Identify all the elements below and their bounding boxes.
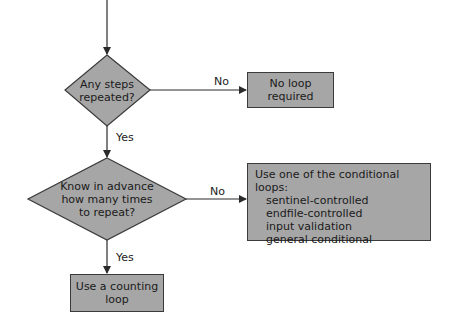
- box-2-item: input validation: [266, 220, 430, 233]
- box-3-line-2: loop: [71, 293, 163, 306]
- edge-label-d2-no: No: [210, 185, 225, 198]
- decision-1-text: Any steps repeated?: [62, 78, 152, 104]
- box-3-line-1: Use a counting: [71, 280, 163, 293]
- edge-label-d2-yes: Yes: [116, 251, 134, 264]
- decision-2-line-2: how many times: [47, 193, 167, 206]
- box-2-title: Use one of the conditional loops:: [255, 168, 430, 194]
- decision-1-line-1: Any steps: [62, 78, 152, 91]
- process-box-conditional-loops: Use one of the conditional loops: sentin…: [247, 163, 431, 241]
- edge-label-d1-no: No: [214, 75, 229, 88]
- decision-2-text: Know in advance how many times to repeat…: [47, 180, 167, 219]
- process-box-no-loop: No loop required: [247, 72, 334, 108]
- box-1-line-1: No loop: [248, 77, 333, 90]
- decision-2-line-3: to repeat?: [47, 206, 167, 219]
- box-1-line-2: required: [248, 90, 333, 103]
- decision-2-line-1: Know in advance: [47, 180, 167, 193]
- process-box-counting-loop: Use a counting loop: [70, 274, 164, 312]
- box-2-item: sentinel-controlled: [266, 194, 430, 207]
- box-2-item: general conditional: [266, 233, 430, 246]
- edge-label-d1-yes: Yes: [116, 131, 134, 144]
- box-2-item: endfile-controlled: [266, 207, 430, 220]
- decision-1-line-2: repeated?: [62, 91, 152, 104]
